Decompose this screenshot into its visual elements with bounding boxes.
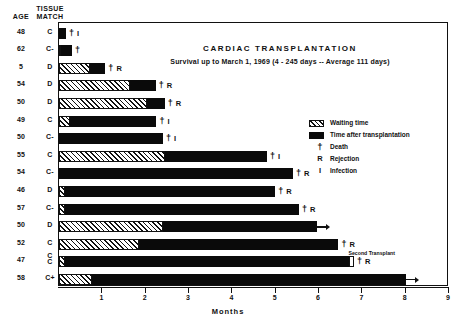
- legend-item: Waiting time: [309, 117, 444, 129]
- bar-row: [59, 274, 449, 285]
- row-age: 54: [8, 168, 34, 175]
- death-marker-icon: †: [302, 204, 307, 214]
- bar-row: †R: [59, 98, 449, 109]
- infection-marker: I: [77, 29, 79, 38]
- x-axis-line: [58, 287, 448, 288]
- row-age: 55: [8, 151, 34, 158]
- x-axis-tick: [448, 287, 449, 293]
- rejection-marker: R: [350, 240, 355, 249]
- legend-rejection-glyph: R: [314, 153, 326, 165]
- bar-segment-post-transplant: [59, 28, 66, 39]
- death-marker-icon: †: [166, 133, 171, 143]
- death-marker-icon: †: [296, 168, 301, 178]
- second-transplant-note: Second Transplant: [349, 250, 395, 256]
- bar-segment-waiting-time: [59, 274, 92, 285]
- legend: Waiting timeTime after transplantation†D…: [309, 117, 444, 177]
- bar-segment-post-transplant: [59, 168, 293, 179]
- death-marker-icon: †: [342, 239, 347, 249]
- death-marker-icon: †: [270, 151, 275, 161]
- row-age: 62: [8, 45, 34, 52]
- row-age: 49: [8, 116, 34, 123]
- row-age: 50: [8, 98, 34, 105]
- x-axis-tick: [275, 287, 276, 293]
- bar-segment-post-transplant: [163, 221, 317, 232]
- chart-figure: AGE TISSUE MATCH 48625545049505554465750…: [0, 0, 456, 330]
- event-markers: †R: [108, 63, 121, 74]
- x-axis-tick: [361, 287, 362, 293]
- bar-segment-post-transplant: [147, 98, 165, 109]
- event-markers: †I: [69, 28, 79, 39]
- bar-segment-post-transplant: [65, 186, 275, 197]
- x-axis-tick: [318, 287, 319, 293]
- x-axis-tick: [101, 287, 102, 293]
- bar-row: †R: [59, 186, 449, 197]
- event-markers: †R: [357, 256, 370, 267]
- bar-segment-waiting-time: [59, 239, 139, 250]
- bar-segment-post-transplant: [165, 151, 267, 162]
- legend-swatch-post-transplant: [309, 132, 324, 139]
- x-axis-tick-label: 7: [354, 294, 368, 301]
- bar-segment-post-transplant: [92, 274, 406, 285]
- death-marker-icon: †: [160, 116, 165, 126]
- x-axis-tick: [188, 287, 189, 293]
- x-axis-tick-label: 2: [138, 294, 152, 301]
- bar-segment-post-transplant: [61, 45, 72, 56]
- event-markers: †R: [168, 98, 181, 109]
- legend-item: RRejection: [309, 153, 444, 165]
- bar-segment-waiting-time: [59, 221, 163, 232]
- bar-segment-waiting-time: [59, 98, 147, 109]
- death-marker-icon: †: [108, 63, 113, 73]
- row-age: 5: [8, 63, 34, 70]
- infection-marker: I: [168, 117, 170, 126]
- legend-death-icon: †: [314, 141, 326, 153]
- x-axis-tick-label: 8: [398, 294, 412, 301]
- bar-row: †R: [59, 204, 449, 215]
- row-age: 50: [8, 133, 34, 140]
- death-marker-icon: †: [278, 186, 283, 196]
- infection-marker: I: [278, 152, 280, 161]
- death-marker-icon: †: [357, 256, 362, 266]
- ongoing-survival-arrow-icon: [317, 224, 331, 229]
- bar-segment-waiting-time: [59, 116, 70, 127]
- bar-segment-post-transplant: [139, 239, 338, 250]
- legend-label: Death: [330, 141, 348, 153]
- x-axis-tick-label: 3: [181, 294, 195, 301]
- bar-segment-post-transplant: [59, 133, 163, 144]
- legend-label: Infection: [330, 165, 357, 177]
- bar-segment-post-transplant: [70, 116, 157, 127]
- ongoing-survival-arrow-icon: [406, 277, 420, 282]
- legend-swatch-waiting-time: [309, 120, 324, 127]
- chart-title: CARDIAC TRANSPLANTATION: [150, 44, 410, 53]
- death-marker-icon: †: [69, 28, 74, 38]
- row-age: 48: [8, 28, 34, 35]
- event-markers: †I: [270, 151, 280, 162]
- x-axis-tick-label: 4: [224, 294, 238, 301]
- row-age: 47: [8, 256, 34, 263]
- x-axis-tick: [405, 287, 406, 293]
- legend-label: Rejection: [330, 153, 359, 165]
- row-age: 52: [8, 239, 34, 246]
- bar-segment-waiting-time: [59, 151, 165, 162]
- bar-segment-gap: [349, 256, 354, 267]
- row-age: 50: [8, 221, 34, 228]
- legend-label: Waiting time: [330, 117, 368, 129]
- x-axis-tick-label: 9: [441, 294, 455, 301]
- infection-marker: I: [174, 134, 176, 143]
- bar-segment-waiting-time: [59, 63, 90, 74]
- bar-row: †R: [59, 256, 449, 267]
- bar-row: [59, 221, 449, 232]
- death-marker-icon: †: [168, 98, 173, 108]
- chart-subtitle: Survival up to March 1, 1969 (4 - 245 da…: [140, 58, 420, 65]
- bar-segment-waiting-time: [59, 80, 130, 91]
- event-markers: †R: [342, 239, 355, 250]
- legend-label: Time after transplantation: [330, 129, 410, 141]
- legend-infection-glyph: I: [314, 165, 326, 177]
- rejection-marker: R: [167, 81, 172, 90]
- rejection-marker: R: [310, 205, 315, 214]
- x-axis-tick-label: 1: [94, 294, 108, 301]
- event-markers: †R: [302, 204, 315, 215]
- bar-row: †R: [59, 80, 449, 91]
- legend-item: Time after transplantation: [309, 129, 444, 141]
- bar-segment-post-transplant: [130, 80, 156, 91]
- x-axis-tick: [145, 287, 146, 293]
